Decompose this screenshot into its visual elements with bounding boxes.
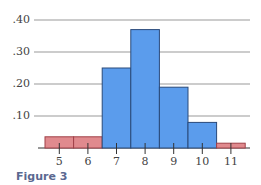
- figure-caption: Figure 3: [16, 170, 67, 183]
- bar-9: [159, 87, 188, 148]
- x-tick-label: 6: [76, 155, 100, 168]
- y-tick-label: .10: [2, 109, 30, 122]
- x-tick-label: 9: [162, 155, 186, 168]
- x-tick-label: 11: [219, 155, 243, 168]
- x-tick-label: 7: [105, 155, 129, 168]
- x-tick-label: 5: [47, 155, 71, 168]
- bar-8: [131, 30, 160, 148]
- y-tick-label: .20: [2, 77, 30, 90]
- x-tick-label: 8: [133, 155, 157, 168]
- x-tick-label: 10: [190, 155, 214, 168]
- bar-7: [102, 68, 131, 148]
- bars: [45, 30, 245, 148]
- y-tick-label: .40: [2, 13, 30, 26]
- y-tick-label: .30: [2, 45, 30, 58]
